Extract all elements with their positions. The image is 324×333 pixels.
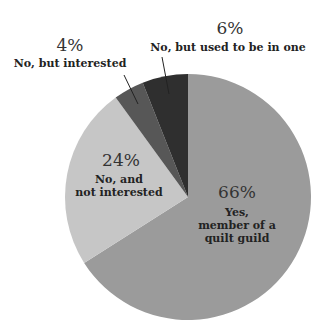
label-interested: No, but interested (14, 57, 127, 70)
label-used-to-be: No, but used to be in one (150, 41, 305, 54)
label-yes-line1: Yes, (224, 206, 249, 219)
pct-not-interested: 24% (102, 150, 140, 170)
pct-used-to-be: 6% (217, 18, 244, 38)
pct-interested: 4% (57, 35, 84, 55)
pct-yes: 66% (218, 182, 256, 202)
label-not-interested-line2: not interested (75, 186, 163, 199)
label-yes-line2: member of a (198, 219, 276, 232)
pie-chart: 6% No, but used to be in one 4% No, but … (0, 0, 324, 333)
label-not-interested-line1: No, and (95, 173, 143, 186)
label-yes-line3: quilt guild (205, 232, 270, 245)
